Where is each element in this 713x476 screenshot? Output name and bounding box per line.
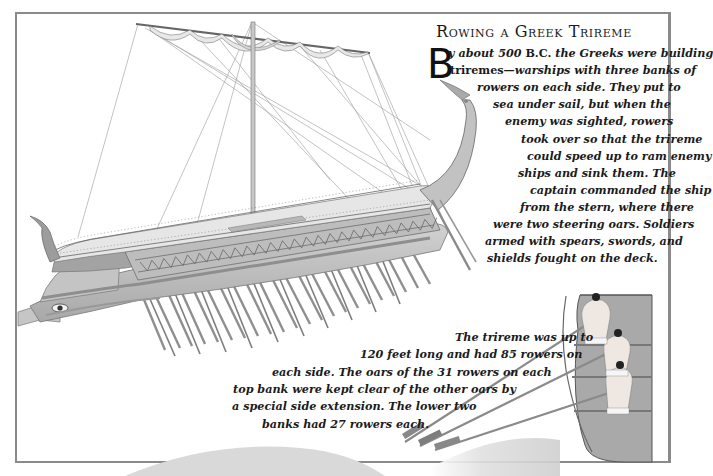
caption-line: The trireme was up to bbox=[455, 329, 593, 346]
caption-line: top bank were kept clear of the other oa… bbox=[233, 381, 516, 398]
caption-line: banks had 27 rowers each. bbox=[262, 416, 429, 433]
caption-line: 120 feet long and had 85 rowers on bbox=[360, 346, 582, 363]
caption-line: each side. The oars of the 31 rowers on … bbox=[272, 364, 552, 381]
caption-line: a special side extension. The lower two bbox=[232, 398, 476, 415]
